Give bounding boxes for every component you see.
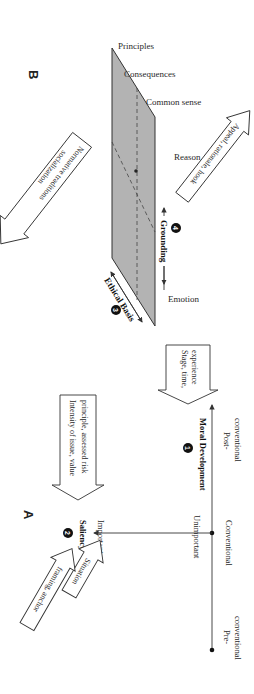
stage-pre-conventional: conventional <box>233 616 243 661</box>
panel-label-b: B <box>26 70 41 79</box>
stage-conventional: Conventional <box>224 520 234 566</box>
intensity-of-issue-arrow: Intensity of issue, value principle, ass… <box>52 395 104 500</box>
panel-label-a: A <box>21 510 36 520</box>
level-consequences: Consequences <box>124 69 176 79</box>
emotion-label: Emotion <box>168 294 199 304</box>
center-point <box>134 169 138 173</box>
ethical-basis-number: 3 <box>112 308 119 312</box>
stage-post-conventional: conventional <box>233 418 243 463</box>
rotated-figure: B Principles Consequences Common sense R… <box>0 41 254 661</box>
saliency-number: 2 <box>64 531 71 535</box>
intensity-line2: principle, assessed risk <box>80 400 89 474</box>
moral-development-title: Moral Development <box>198 418 208 491</box>
reason-label: Reason <box>174 152 201 162</box>
stage-pre: Pre- <box>222 630 232 644</box>
grounding-number: 4 <box>172 226 179 230</box>
stage-post: Post- <box>222 432 232 450</box>
stage-time-experience-line2: experience <box>190 350 199 385</box>
unimportant-label: Unimportant <box>192 515 202 559</box>
level-common-sense: Common sense <box>146 97 201 107</box>
pre-conventional-point <box>210 648 215 653</box>
normative-traditions-arrow: Normative traditions socialization <box>0 129 96 255</box>
stage-time-experience-line1: Stage, time, <box>180 350 189 388</box>
level-principles: Principles <box>118 41 154 51</box>
stage-time-experience-arrow: Stage, time, experience <box>158 345 218 404</box>
figure-canvas: B Principles Consequences Common sense R… <box>0 0 254 694</box>
intensity-line1: Intensity of issue, value <box>68 400 77 476</box>
moral-development-number: 1 <box>184 446 191 450</box>
grounding-title: Grounding <box>159 220 169 263</box>
